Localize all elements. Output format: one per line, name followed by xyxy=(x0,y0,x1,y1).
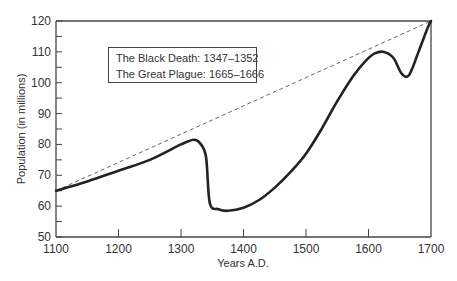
population-chart: 5060708090100110120 11001200130014001500… xyxy=(0,0,457,281)
annotation-black-death: The Black Death: 1347–1352 xyxy=(116,50,256,66)
annotation-great-plague: The Great Plague: 1665–1666 xyxy=(116,66,256,82)
x-tick-label: 1100 xyxy=(43,242,69,256)
annotation-box: The Black Death: 1347–1352 The Great Pla… xyxy=(108,47,257,83)
y-axis-title: Population (in millions) xyxy=(15,74,27,185)
x-tick-label: 1700 xyxy=(418,242,445,256)
y-tick-label: 100 xyxy=(31,76,51,90)
y-tick-label: 80 xyxy=(38,137,52,151)
y-ticks: 5060708090100110120 xyxy=(31,14,62,244)
x-tick-label: 1400 xyxy=(230,242,257,256)
y-tick-label: 90 xyxy=(38,107,52,121)
y-tick-label: 110 xyxy=(32,45,51,59)
x-tick-label: 1200 xyxy=(105,242,132,256)
x-tick-label: 1600 xyxy=(355,242,382,256)
y-tick-label: 70 xyxy=(38,168,52,182)
x-tick-label: 1300 xyxy=(168,242,195,256)
y-tick-label: 60 xyxy=(38,199,52,213)
x-ticks: 1100120013001400150016001700 xyxy=(43,229,445,256)
y-tick-label: 120 xyxy=(31,14,51,28)
x-axis-title: Years A.D. xyxy=(217,257,269,269)
x-tick-label: 1500 xyxy=(293,242,320,256)
